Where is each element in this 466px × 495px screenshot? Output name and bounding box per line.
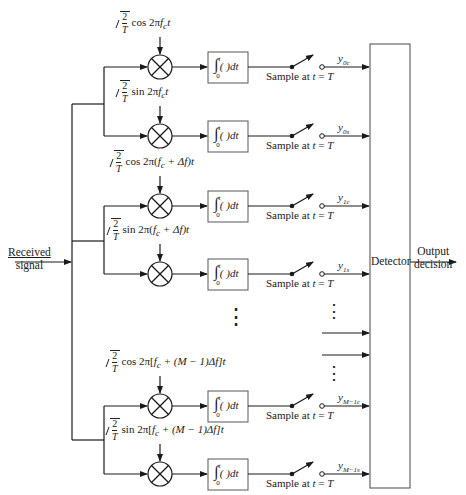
ref-func: cos 2π — [132, 16, 160, 28]
fraction: 2T — [120, 80, 130, 104]
fraction-denominator: T — [112, 363, 118, 374]
integral-body: ( )dt — [220, 267, 239, 279]
ref-tail: t — [165, 85, 168, 97]
fraction-denominator: T — [122, 93, 128, 104]
sampler-switch-icon — [292, 55, 313, 67]
output-label-line2: decision — [414, 258, 452, 270]
sample-label: Sample at t = T — [266, 477, 333, 489]
output-label-1c: y1c — [338, 192, 350, 206]
sqrt-symbol: 2T — [104, 218, 121, 242]
output-subscript: M−1c — [343, 398, 360, 406]
switch-contact — [320, 272, 325, 277]
output-label-M-1c: yM−1c — [338, 392, 360, 406]
output-label-line1: Output — [417, 245, 449, 257]
integral-body: ( )dt — [220, 60, 239, 72]
sample-eq: = — [316, 409, 328, 421]
integrator-label: ∫t0( )dt — [214, 263, 238, 282]
sampler-switch-icon — [292, 262, 313, 274]
output-label-0s: y0s — [338, 122, 349, 136]
sample-label: Sample at t = T — [266, 139, 333, 151]
sample-text: Sample at — [266, 277, 312, 289]
integrator-label: ∫t0( )dt — [214, 395, 238, 414]
sqrt-symbol: 2T — [103, 418, 120, 442]
sample-label: Sample at t = T — [266, 70, 333, 82]
fraction: 2T — [114, 150, 124, 174]
sample-T: T — [327, 409, 333, 421]
sqrt-symbol: 2T — [103, 350, 120, 374]
sample-text: Sample at — [266, 209, 312, 221]
ref-tail: + (M − 1)Δf]t — [161, 355, 226, 367]
reference-signal-label-1c: 2Tcos 2π(fc + Δf)t — [107, 150, 194, 174]
sampler-switch-icon — [292, 462, 313, 474]
integral-lower-limit: 0 — [216, 141, 220, 149]
sample-eq: = — [316, 139, 328, 151]
sample-text: Sample at — [266, 409, 312, 421]
sample-eq: = — [316, 70, 328, 82]
ellipsis-right-upper: ⋮ — [325, 302, 331, 320]
sqrt-symbol: 2T — [107, 150, 124, 174]
fraction-numerator: 2 — [122, 81, 127, 93]
output-label-M-1s: yM−1s — [338, 460, 360, 474]
output-subscript: M−1s — [343, 466, 360, 474]
reference-signal-label-M-1c: 2Tcos 2π[fc + (M − 1)Δf]t — [103, 350, 226, 374]
sampler-switch-icon — [292, 124, 313, 136]
sample-eq: = — [316, 209, 328, 221]
fraction-numerator: 2 — [112, 419, 117, 431]
fraction-denominator: T — [113, 231, 119, 242]
ref-func: cos 2π[ — [122, 355, 154, 367]
switch-contact — [320, 472, 325, 477]
fraction-denominator: T — [116, 163, 122, 174]
switch-contact — [320, 404, 325, 409]
sample-eq: = — [316, 277, 328, 289]
output-decision-label: Output decision — [414, 245, 452, 270]
sample-T: T — [327, 477, 333, 489]
fraction-numerator: 2 — [122, 12, 127, 24]
integral-lower-limit: 0 — [216, 72, 220, 80]
sample-T: T — [327, 139, 333, 151]
sample-text: Sample at — [266, 477, 312, 489]
integrator-label: ∫t0( )dt — [214, 125, 238, 144]
sample-text: Sample at — [266, 139, 312, 151]
fraction: 2T — [111, 218, 121, 242]
sampler-switch-icon — [292, 194, 313, 206]
integral-lower-limit: 0 — [216, 211, 220, 219]
ref-func: sin 2π[ — [122, 423, 152, 435]
reference-signal-label-0c: 2Tcos 2πfct — [113, 11, 170, 35]
output-subscript: 1s — [343, 266, 349, 274]
sqrt-symbol: 2T — [113, 11, 130, 35]
integral-lower-limit: 0 — [216, 479, 220, 487]
output-subscript: 0c — [343, 59, 350, 67]
fraction: 2T — [120, 11, 130, 35]
received-signal-label: Received signal — [8, 246, 51, 271]
ellipsis-middle: ⋮ — [225, 307, 231, 327]
fraction-numerator: 2 — [113, 219, 118, 231]
sample-T: T — [327, 277, 333, 289]
received-label-line2: signal — [16, 259, 43, 271]
ref-tail: + Δf)t — [160, 223, 189, 235]
reference-signal-label-1s: 2Tsin 2π(fc + Δf)t — [104, 218, 189, 242]
switch-contact — [320, 134, 325, 139]
received-label-line1: Received — [8, 246, 51, 258]
sample-text: Sample at — [266, 70, 312, 82]
output-label-1s: y1s — [338, 260, 349, 274]
fraction: 2T — [110, 350, 120, 374]
integrator-label: ∫t0( )dt — [214, 463, 238, 482]
reference-signal-label-0s: 2Tsin 2πfct — [113, 80, 168, 104]
switch-contact — [320, 65, 325, 70]
sample-T: T — [327, 70, 333, 82]
fraction-denominator: T — [112, 431, 118, 442]
integral-body: ( )dt — [220, 199, 239, 211]
output-subscript: 0s — [343, 128, 349, 136]
sample-eq: = — [316, 477, 328, 489]
output-subscript: 1c — [343, 198, 350, 206]
sqrt-symbol: 2T — [113, 80, 130, 104]
switch-contact — [320, 204, 325, 209]
sample-label: Sample at t = T — [266, 409, 333, 421]
integral-body: ( )dt — [220, 467, 239, 479]
integrator-label: ∫t0( )dt — [214, 195, 238, 214]
reference-signal-label-M-1s: 2Tsin 2π[fc + (M − 1)Δf]t — [103, 418, 224, 442]
output-label-0c: y0c — [338, 53, 350, 67]
ref-tail: + Δf)t — [165, 155, 194, 167]
sampler-switch-icon — [292, 394, 313, 406]
ref-func: sin 2π( — [123, 223, 153, 235]
